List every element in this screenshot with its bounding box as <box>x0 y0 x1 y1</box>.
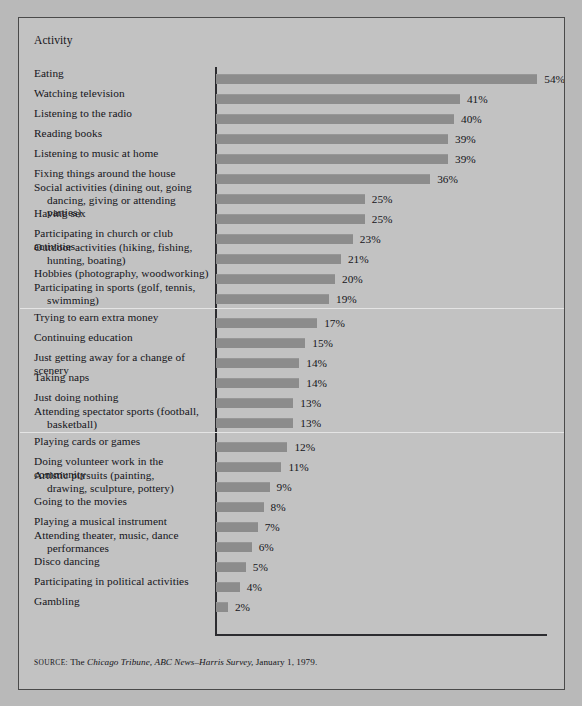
bar-row: Having sex25% <box>19 207 565 227</box>
source-date: January 1, 1979. <box>253 657 317 667</box>
bar <box>216 234 353 244</box>
bar-value-label: 41% <box>467 94 488 105</box>
bar-row-label-line1: Eating <box>34 67 64 79</box>
bar <box>216 254 341 264</box>
bar <box>216 602 228 612</box>
bar <box>216 134 448 144</box>
bar-value-label: 36% <box>437 174 458 185</box>
bar <box>216 294 329 304</box>
source-text-before: The <box>70 657 87 667</box>
bar-row-label: Playing cards or games <box>34 435 212 448</box>
bar-value-label: 39% <box>455 154 476 165</box>
bar-row: Artistic pursuits (painting,drawing, scu… <box>19 475 565 495</box>
bar-chart-plot-area: Eating54%Watching television41%Listening… <box>19 67 565 644</box>
bar-value-label: 11% <box>288 462 308 473</box>
bar-row-label: Playing a musical instrument <box>34 515 212 528</box>
source-publication: Chicago Tribune, <box>87 657 152 667</box>
bar-row: Going to the movies8% <box>19 495 565 515</box>
bar-row-label-line1: Listening to the radio <box>34 107 132 119</box>
bar-row-label: Artistic pursuits (painting,drawing, scu… <box>34 469 212 494</box>
bar-row-label: Going to the movies <box>34 495 212 508</box>
bar-value-label: 14% <box>306 378 327 389</box>
bar-row-label: Continuing education <box>34 331 212 344</box>
bar-row-label-line1: Taking naps <box>34 371 89 383</box>
bar-row: Watching television41% <box>19 87 565 107</box>
bar-row-label-line1: Participating in sports (golf, tennis, <box>34 281 195 293</box>
bar <box>216 582 240 592</box>
bar-row-label: Attending spectator sports (football,bas… <box>34 405 212 430</box>
source-survey: ABC News–Harris Survey, <box>154 657 253 667</box>
bar-row: Just getting away for a change of scener… <box>19 351 565 371</box>
bar-row: Listening to the radio40% <box>19 107 565 127</box>
bar-row: Trying to earn extra money17% <box>19 311 565 331</box>
bar <box>216 114 454 124</box>
bar-row-label-line2: basketball) <box>34 418 212 431</box>
bar-value-label: 54% <box>544 74 565 85</box>
bar-row-label-line1: Going to the movies <box>34 495 127 507</box>
bar-value-label: 12% <box>294 442 315 453</box>
bar-row: Outdoor activities (hiking, fishing,hunt… <box>19 247 565 267</box>
bar-value-label: 8% <box>271 502 286 513</box>
bar-value-label: 4% <box>247 582 262 593</box>
bar <box>216 318 317 328</box>
bar-row-label: Eating <box>34 67 212 80</box>
bar-row: Taking naps14% <box>19 371 565 391</box>
column-header-activity: Activity <box>34 34 73 46</box>
group-separator <box>20 432 565 433</box>
bar-row: Participating in sports (golf, tennis,sw… <box>19 287 565 307</box>
bar-row-label-line1: Gambling <box>34 595 80 607</box>
bar-row: Disco dancing5% <box>19 555 565 575</box>
bar-row-label-line1: Fixing things around the house <box>34 167 175 179</box>
bar-value-label: 9% <box>277 482 292 493</box>
bar <box>216 522 258 532</box>
bar <box>216 462 281 472</box>
bar <box>216 542 252 552</box>
bar-row: Gambling2% <box>19 595 565 615</box>
bar <box>216 338 305 348</box>
bar-row-label-line1: Trying to earn extra money <box>34 311 159 323</box>
bar-row-label: Just doing nothing <box>34 391 212 404</box>
bar-row: Eating54% <box>19 67 565 87</box>
bar-value-label: 15% <box>312 338 333 349</box>
bar <box>216 562 246 572</box>
bar <box>216 502 264 512</box>
bar-row-label-line1: Artistic pursuits (painting, <box>34 469 154 481</box>
bar-value-label: 40% <box>461 114 482 125</box>
bar-row-label-line1: Having sex <box>34 207 86 219</box>
bar-row: Social activities (dining out, goingdanc… <box>19 187 565 207</box>
bar-value-label: 17% <box>324 318 345 329</box>
bar-value-label: 21% <box>348 254 369 265</box>
bar-row-label-line1: Playing a musical instrument <box>34 515 167 527</box>
bar-row-label-line1: Playing cards or games <box>34 435 140 447</box>
bar-row-label: Hobbies (photography, woodworking) <box>34 267 212 280</box>
bar-row-label: Reading books <box>34 127 212 140</box>
bar-row-label: Having sex <box>34 207 212 220</box>
bar-row-label-line1: Watching television <box>34 87 125 99</box>
bar-row-label: Listening to the radio <box>34 107 212 120</box>
bar <box>216 274 335 284</box>
bar-row-label-line1: Just doing nothing <box>34 391 118 403</box>
bar-row-label-line2: swimming) <box>34 294 212 307</box>
bar-row: Participating in political activities4% <box>19 575 565 595</box>
bar-row-label-line1: Social activities (dining out, going <box>34 181 192 193</box>
bar-row-label: Trying to earn extra money <box>34 311 212 324</box>
bar-value-label: 25% <box>372 194 393 205</box>
bar-value-label: 2% <box>235 602 250 613</box>
bar-row-label-line2: drawing, sculpture, pottery) <box>34 482 212 495</box>
bar-row-label: Fixing things around the house <box>34 167 212 180</box>
bar-row: Attending spectator sports (football,bas… <box>19 411 565 431</box>
source-label: SOURCE: <box>34 658 68 667</box>
bar <box>216 94 460 104</box>
bar-value-label: 39% <box>455 134 476 145</box>
bar-row-label: Participating in political activities <box>34 575 212 588</box>
source-note: SOURCE: The Chicago Tribune, ABC News–Ha… <box>34 657 317 667</box>
bar <box>216 174 430 184</box>
bar-value-label: 25% <box>372 214 393 225</box>
bar-row-label-line1: Participating in political activities <box>34 575 189 587</box>
bar-row-label: Gambling <box>34 595 212 608</box>
bar <box>216 214 365 224</box>
bar-row-label: Participating in sports (golf, tennis,sw… <box>34 281 212 306</box>
bar-row-label-line1: Hobbies (photography, woodworking) <box>34 267 208 279</box>
bar-row-label-line1: Continuing education <box>34 331 133 343</box>
bar-row-label: Taking naps <box>34 371 212 384</box>
